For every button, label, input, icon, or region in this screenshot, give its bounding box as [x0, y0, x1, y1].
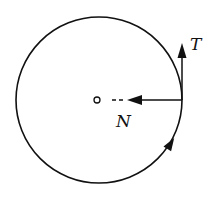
- label-t: T: [190, 34, 203, 54]
- circular-motion-diagram: T N: [0, 0, 216, 200]
- arrowhead-icon: [127, 95, 142, 105]
- arrowhead-icon: [178, 43, 187, 58]
- center-point: [94, 97, 100, 103]
- normal-force-arrow: [112, 95, 182, 105]
- tangential-force-arrow: [178, 43, 187, 100]
- label-n: N: [115, 111, 132, 131]
